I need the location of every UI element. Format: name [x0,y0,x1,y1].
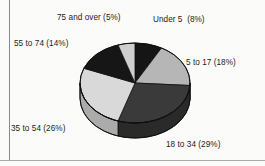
slice-label-75-and-over: 75 and over (5%) [57,13,121,23]
slice-label-55-to-74: 55 to 74 (14%) [14,39,68,49]
slice-label-18-to-34: 18 to 34 (29%) [166,140,220,150]
pie-chart-svg [78,33,192,145]
page-rule-bottom [0,160,265,161]
page-rule-left [9,0,10,161]
pie-chart [78,33,192,145]
slice-label-5-to-17: 5 to 17 (18%) [186,58,236,68]
slice-label-under-5: Under 5 (8%) [153,15,205,25]
slice-label-35-to-54: 35 to 54 (26%) [11,124,65,134]
chart-figure: 75 and over (5%) Under 5 (8%) 55 to 74 (… [0,0,265,166]
